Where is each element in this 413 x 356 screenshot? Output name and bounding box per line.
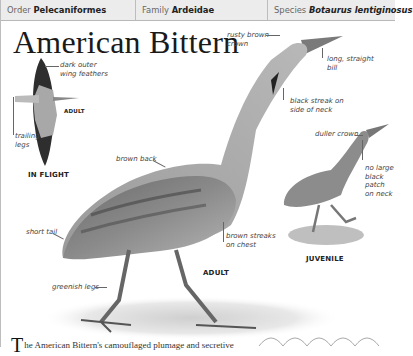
flight-adult-caption: ADULT	[64, 108, 85, 114]
leader-line	[95, 287, 107, 288]
juvenile-caption: JUVENILE	[306, 255, 344, 263]
drop-cap: T	[11, 334, 23, 356]
label-rusty-crown: rusty brown crown	[227, 31, 269, 48]
adult-caption: ADULT	[203, 269, 229, 277]
label-long-bill: long, straight bill	[327, 55, 374, 72]
label-duller-crown: duller crown	[315, 130, 358, 139]
leader-line	[266, 35, 280, 36]
in-flight-caption: IN FLIGHT	[28, 171, 69, 179]
body-text: he American Bittern's camouflaged plumag…	[24, 340, 234, 350]
leader-line	[362, 140, 363, 160]
body-paragraph: The American Bittern's camouflaged pluma…	[11, 334, 234, 356]
label-dark-outer-wing: dark outer wing feathers	[60, 61, 108, 78]
label-greenish-legs: greenish legs	[52, 283, 99, 292]
leader-line	[283, 88, 284, 100]
leader-line	[355, 135, 363, 136]
label-black-streak: black streak on side of neck	[290, 97, 344, 114]
leader-line	[45, 66, 59, 67]
leader-line	[322, 48, 323, 58]
label-brown-back: brown back	[116, 155, 157, 164]
label-trailing-legs: trailing legs	[15, 132, 40, 149]
label-no-black-patch: no large black patch on neck	[365, 164, 394, 198]
leader-line	[223, 222, 224, 242]
label-brown-streaks-chest: brown streaks on chest	[226, 232, 276, 249]
leader-line	[13, 97, 14, 135]
